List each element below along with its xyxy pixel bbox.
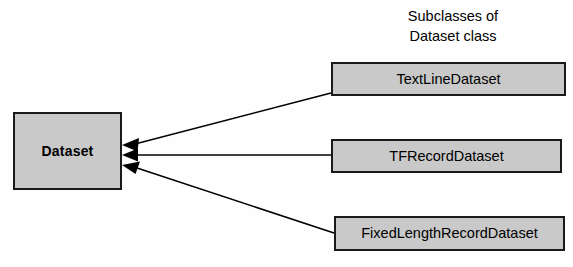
caption-line-1: Subclasses of	[368, 7, 538, 27]
node-fixedlengthrecorddataset-label: FixedLengthRecordDataset	[361, 225, 538, 242]
node-dataset-label: Dataset	[42, 143, 94, 159]
node-dataset[interactable]: Dataset	[13, 112, 122, 190]
edge-textline-to-dataset	[122, 93, 331, 152]
edge-tfrecord-to-dataset	[122, 149, 331, 162]
diagram-caption: Subclasses of Dataset class	[368, 7, 538, 46]
node-textlinedataset-label: TextLineDataset	[397, 71, 501, 88]
caption-line-2: Dataset class	[368, 27, 538, 47]
node-tfrecorddataset[interactable]: TFRecordDataset	[331, 139, 562, 173]
node-tfrecorddataset-label: TFRecordDataset	[389, 148, 503, 165]
node-textlinedataset[interactable]: TextLineDataset	[331, 62, 566, 96]
diagram-canvas: Subclasses of Dataset class Dataset Text…	[0, 0, 573, 267]
node-fixedlengthrecorddataset[interactable]: FixedLengthRecordDataset	[334, 216, 565, 251]
edge-fixedlength-to-dataset	[122, 162, 334, 234]
